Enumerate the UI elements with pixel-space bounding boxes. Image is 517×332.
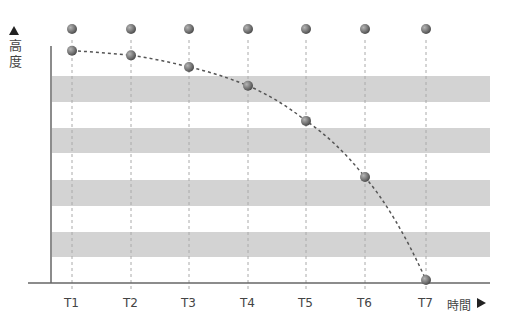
ball	[184, 24, 194, 34]
diagram-canvas	[0, 0, 517, 332]
ball	[243, 24, 253, 34]
ball	[184, 62, 194, 72]
ball	[243, 81, 253, 91]
ball	[301, 24, 311, 34]
ball	[67, 46, 77, 56]
time-label: T1	[64, 296, 79, 310]
band	[52, 232, 490, 257]
x-axis-arrow-icon	[477, 298, 486, 308]
time-label: T3	[181, 296, 196, 310]
time-label: T5	[298, 296, 313, 310]
ball	[126, 50, 136, 60]
time-label: T4	[240, 296, 255, 310]
horizontal-bands	[52, 76, 490, 257]
reference-balls	[67, 24, 431, 34]
time-label: T2	[123, 296, 138, 310]
band	[52, 128, 490, 153]
band	[52, 180, 490, 206]
time-label: T6	[357, 296, 372, 310]
x-axis-label: 時間	[447, 296, 471, 313]
time-label: T7	[418, 296, 433, 310]
y-axis-label: 高度	[6, 38, 24, 70]
ball	[360, 172, 370, 182]
ball	[301, 116, 311, 126]
band	[52, 76, 490, 102]
ball	[360, 24, 370, 34]
ball	[67, 24, 77, 34]
y-axis-arrow-icon	[9, 26, 19, 35]
ball	[421, 24, 431, 34]
falling-object-diagram: 高度 T1T2T3T4T5T6T7 時間	[0, 0, 517, 332]
ball	[126, 24, 136, 34]
ball	[421, 275, 431, 285]
